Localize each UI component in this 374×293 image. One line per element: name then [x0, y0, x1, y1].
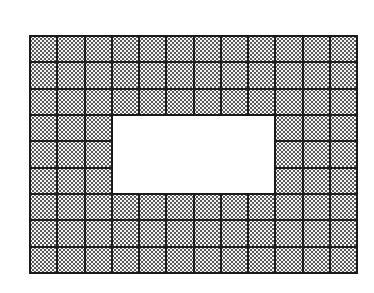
hole-cell [194, 168, 221, 194]
tile-cell [275, 194, 302, 220]
tile-cell [30, 194, 57, 220]
tile-cell [30, 141, 57, 167]
tile-cell [303, 36, 330, 62]
tile-cell [85, 168, 112, 194]
tile-cell [139, 220, 166, 246]
tile-cell [85, 36, 112, 62]
hole-cell [166, 168, 193, 194]
tile-cell [303, 220, 330, 246]
hole-cell [139, 115, 166, 141]
tile-cell [330, 220, 357, 246]
tile-cell [166, 194, 193, 220]
tile-cell [330, 115, 357, 141]
tile-cell [221, 89, 248, 115]
tile-cell [248, 89, 275, 115]
tile-cell [248, 220, 275, 246]
tile-cell [85, 247, 112, 273]
tile-cell [85, 141, 112, 167]
tile-cell [275, 115, 302, 141]
tile-cell [194, 194, 221, 220]
tile-cell [303, 62, 330, 88]
tile-cell [112, 220, 139, 246]
tile-cell [194, 36, 221, 62]
tile-cell [330, 168, 357, 194]
tile-cell [57, 247, 84, 273]
hole-cell [221, 115, 248, 141]
tile-cell [112, 36, 139, 62]
hole-cell [166, 115, 193, 141]
tile-cell [194, 220, 221, 246]
tile-cell [303, 89, 330, 115]
tile-cell [57, 168, 84, 194]
tile-cell [139, 36, 166, 62]
hole-cell [166, 141, 193, 167]
tile-cell [139, 194, 166, 220]
tile-cell [112, 89, 139, 115]
tile-cell [57, 141, 84, 167]
hole-cell [139, 168, 166, 194]
tile-cell [85, 194, 112, 220]
tile-cell [221, 62, 248, 88]
hole-cell [248, 141, 275, 167]
tile-cell [330, 89, 357, 115]
tile-grid [30, 36, 357, 273]
tile-cell [57, 89, 84, 115]
tile-cell [303, 141, 330, 167]
tile-cell [275, 36, 302, 62]
hole-cell [112, 115, 139, 141]
tile-cell [275, 220, 302, 246]
tile-cell [248, 36, 275, 62]
hole-cell [112, 168, 139, 194]
tile-cell [85, 115, 112, 141]
tile-cell [166, 36, 193, 62]
tile-cell [330, 194, 357, 220]
tile-cell [248, 62, 275, 88]
tile-cell [30, 247, 57, 273]
tile-cell [221, 220, 248, 246]
tile-cell [275, 247, 302, 273]
tile-cell [194, 62, 221, 88]
tile-cell [248, 194, 275, 220]
tile-cell [139, 89, 166, 115]
tile-cell [30, 168, 57, 194]
tile-cell [57, 115, 84, 141]
tile-cell [303, 168, 330, 194]
tile-cell [166, 89, 193, 115]
tile-cell [194, 247, 221, 273]
tile-cell [57, 62, 84, 88]
tile-cell [112, 62, 139, 88]
hole-cell [194, 115, 221, 141]
tile-cell [30, 89, 57, 115]
tile-cell [275, 62, 302, 88]
tile-cell [30, 62, 57, 88]
hole-cell [221, 141, 248, 167]
hole-cell [194, 141, 221, 167]
hole-cell [248, 168, 275, 194]
tile-cell [303, 194, 330, 220]
tile-cell [30, 36, 57, 62]
tile-cell [303, 247, 330, 273]
tile-cell [57, 220, 84, 246]
tile-cell [30, 115, 57, 141]
tile-cell [221, 247, 248, 273]
tile-cell [30, 220, 57, 246]
tile-cell [112, 194, 139, 220]
tile-cell [275, 168, 302, 194]
hole-cell [248, 115, 275, 141]
tile-cell [57, 36, 84, 62]
tile-cell [330, 36, 357, 62]
tile-cell [85, 89, 112, 115]
tile-cell [166, 62, 193, 88]
tile-cell [139, 247, 166, 273]
tile-cell [85, 220, 112, 246]
tile-cell [275, 89, 302, 115]
tile-cell [221, 36, 248, 62]
tile-cell [221, 194, 248, 220]
tile-cell [330, 141, 357, 167]
hole-cell [221, 168, 248, 194]
tile-cell [166, 247, 193, 273]
tile-cell [303, 115, 330, 141]
tile-cell [139, 62, 166, 88]
tile-cell [248, 247, 275, 273]
hole-cell [139, 141, 166, 167]
